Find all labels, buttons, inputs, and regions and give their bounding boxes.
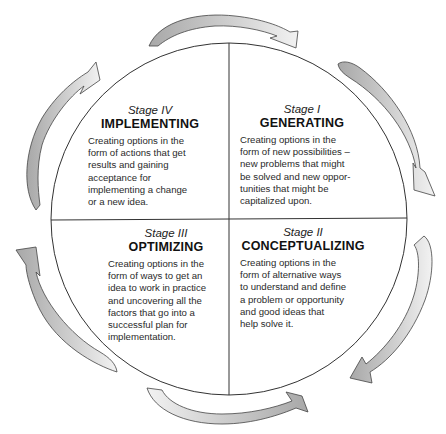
stage-description: Creating options in the form of alternat… (240, 257, 368, 330)
stage-label: Stage IV (84, 104, 216, 117)
stage-title: CONCEPTUALIZING (238, 239, 368, 253)
stage-description: Creating options in the form of actions … (88, 135, 216, 208)
stage-description: Creating options in the form of ways to … (108, 258, 226, 343)
stage-title: IMPLEMENTING (84, 117, 216, 131)
quadrant-stage-ii: Stage II CONCEPTUALIZING Creating option… (238, 226, 368, 330)
quadrant-stage-iv: Stage IV IMPLEMENTING Creating options i… (84, 104, 216, 208)
stage-title: OPTIMIZING (106, 240, 226, 254)
stage-label: Stage III (106, 227, 226, 240)
cycle-diagram (0, 0, 446, 434)
quadrant-stage-i: Stage I GENERATING Creating options in t… (238, 103, 366, 207)
stage-title: GENERATING (238, 116, 366, 130)
stage-description: Creating options in the form of new poss… (240, 134, 366, 207)
stage-label: Stage I (238, 103, 366, 116)
stage-label: Stage II (238, 226, 368, 239)
quadrant-stage-iii: Stage III OPTIMIZING Creating options in… (106, 227, 226, 343)
